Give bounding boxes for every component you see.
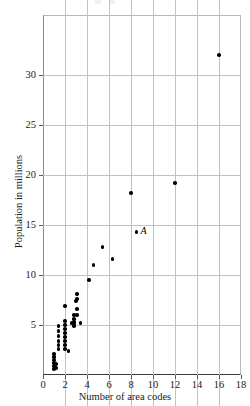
data-point <box>63 327 67 331</box>
x-tick-label: 12 <box>163 379 187 390</box>
data-point <box>63 323 67 327</box>
data-point <box>54 366 58 370</box>
x-gridline <box>197 0 198 406</box>
x-tick-label: 18 <box>229 379 250 390</box>
data-point <box>75 297 79 301</box>
data-point <box>79 321 83 325</box>
scatter-plot-figure: 02468101214161851015202530 A Number of a… <box>0 0 250 406</box>
x-tick-label: 10 <box>141 379 165 390</box>
data-point <box>75 307 79 311</box>
data-point <box>57 329 61 333</box>
clipped-top-artifact <box>95 0 131 4</box>
data-point <box>54 362 58 366</box>
data-point <box>135 230 139 234</box>
data-point <box>63 331 67 335</box>
x-tick-label: 14 <box>185 379 209 390</box>
data-point <box>72 324 76 328</box>
data-point <box>67 349 71 353</box>
x-tick-label: 2 <box>53 379 77 390</box>
data-point <box>63 343 67 347</box>
y-gridline <box>43 75 241 76</box>
data-point <box>52 352 56 356</box>
data-point <box>63 319 67 323</box>
y-tick-mark <box>39 225 43 226</box>
x-gridline <box>87 0 88 406</box>
x-axis-title: Number of area codes <box>0 391 250 402</box>
x-gridline <box>109 0 110 406</box>
data-point <box>87 278 91 282</box>
x-gridline <box>219 0 220 406</box>
data-point <box>173 181 177 185</box>
y-tick-mark <box>39 275 43 276</box>
y-tick-mark <box>39 175 43 176</box>
y-tick-mark <box>39 325 43 326</box>
data-point <box>111 257 115 261</box>
x-gridline <box>153 0 154 406</box>
x-gridline <box>175 0 176 406</box>
data-point <box>57 334 61 338</box>
x-tick-label: 4 <box>75 379 99 390</box>
x-tick-label: 0 <box>31 379 55 390</box>
y-gridline <box>43 275 241 276</box>
data-point <box>217 53 221 57</box>
y-tick-label: 30 <box>14 69 36 80</box>
data-point <box>63 339 67 343</box>
data-point <box>75 292 79 296</box>
x-tick-label: 8 <box>119 379 143 390</box>
data-point <box>63 304 67 308</box>
y-axis-title: Population in millions <box>13 122 24 282</box>
data-point <box>57 347 61 351</box>
y-gridline <box>43 175 241 176</box>
y-gridline <box>43 125 241 126</box>
data-point <box>57 324 61 328</box>
data-point <box>75 313 79 317</box>
y-tick-label: 5 <box>14 319 36 330</box>
data-point-label: A <box>141 225 147 236</box>
x-gridline <box>131 0 132 406</box>
data-point <box>101 245 105 249</box>
y-tick-mark <box>39 75 43 76</box>
data-point <box>57 339 61 343</box>
data-point <box>57 343 61 347</box>
x-tick-label: 6 <box>97 379 121 390</box>
data-point <box>63 335 67 339</box>
y-tick-mark <box>39 125 43 126</box>
data-point <box>129 191 133 195</box>
x-tick-label: 16 <box>207 379 231 390</box>
